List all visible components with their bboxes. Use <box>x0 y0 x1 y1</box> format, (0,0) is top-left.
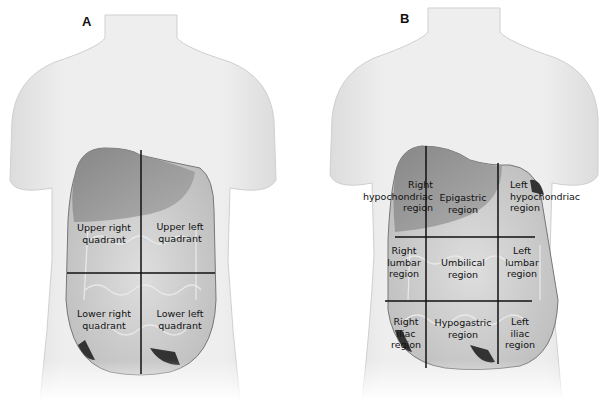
label-lower-left-quadrant: Lower left quadrant <box>157 308 204 331</box>
label-right-lumbar: Right lumbar region <box>387 245 421 280</box>
label-left-iliac: Left iliac region <box>505 316 535 351</box>
label-epigastric: Epigastric region <box>440 192 487 215</box>
label-right-hypochondriac: Right hypochondriac region <box>363 179 433 214</box>
panel-label-b: B <box>400 11 409 26</box>
label-lower-right-quadrant: Lower right quadrant <box>77 308 131 331</box>
label-upper-left-quadrant: Upper left quadrant <box>156 221 203 244</box>
label-left-lumbar: Left lumbar region <box>505 245 539 280</box>
label-umbilical: Umbilical region <box>441 257 485 280</box>
torso-a <box>10 15 276 400</box>
label-right-iliac: Right iliac region <box>391 316 421 351</box>
panel-label-a: A <box>82 14 91 29</box>
label-hypogastric: Hypogastric region <box>435 317 492 340</box>
label-upper-right-quadrant: Upper right quadrant <box>77 222 131 245</box>
label-left-hypochondriac: Left hypochondriac region <box>510 179 580 214</box>
